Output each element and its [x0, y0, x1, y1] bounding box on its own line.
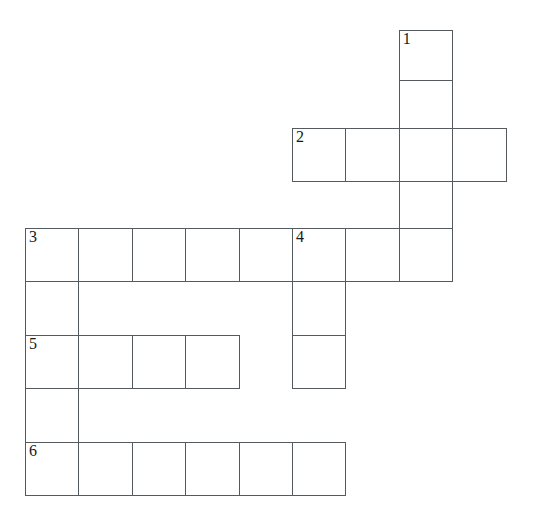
crossword-cell[interactable] — [399, 228, 453, 282]
crossword-cell[interactable] — [399, 181, 453, 229]
crossword-cell[interactable] — [292, 335, 346, 389]
cell-number-label: 2 — [296, 128, 304, 146]
crossword-cell[interactable] — [78, 442, 132, 496]
cell-number-label: 3 — [29, 228, 37, 246]
crossword-cell[interactable] — [292, 442, 346, 496]
crossword-cell[interactable] — [132, 442, 186, 496]
crossword-cell-numbered-6[interactable]: 6 — [25, 442, 79, 496]
crossword-cell[interactable] — [292, 281, 346, 335]
crossword-cells-layer: 123456 — [0, 0, 534, 505]
crossword-cell[interactable] — [78, 335, 132, 389]
crossword-cell[interactable] — [239, 228, 293, 282]
crossword-cell[interactable] — [78, 228, 132, 282]
crossword-puzzle-grid: 123456 — [0, 0, 534, 505]
crossword-cell[interactable] — [132, 335, 186, 389]
cell-number-label: 5 — [29, 335, 37, 353]
crossword-cell[interactable] — [399, 80, 453, 129]
crossword-cell[interactable] — [185, 335, 239, 389]
crossword-cell[interactable] — [185, 228, 239, 282]
crossword-cell-numbered-3[interactable]: 3 — [25, 228, 79, 282]
crossword-cell[interactable] — [239, 442, 293, 496]
cell-number-label: 4 — [296, 228, 304, 246]
crossword-cell[interactable] — [132, 228, 186, 282]
crossword-cell[interactable] — [25, 388, 79, 442]
cell-number-label: 6 — [29, 442, 37, 460]
crossword-cell[interactable] — [185, 442, 239, 496]
crossword-cell-numbered-4[interactable]: 4 — [292, 228, 346, 282]
crossword-cell-numbered-5[interactable]: 5 — [25, 335, 79, 389]
crossword-cell[interactable] — [345, 228, 399, 282]
cell-number-label: 1 — [403, 30, 411, 48]
crossword-cell[interactable] — [452, 128, 506, 182]
crossword-cell[interactable] — [345, 128, 399, 182]
crossword-cell-numbered-1[interactable]: 1 — [399, 30, 453, 81]
crossword-cell[interactable] — [25, 281, 79, 335]
crossword-cell-numbered-2[interactable]: 2 — [292, 128, 346, 182]
crossword-cell[interactable] — [399, 128, 453, 182]
